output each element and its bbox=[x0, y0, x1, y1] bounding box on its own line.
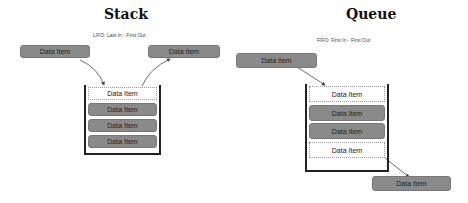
stack-slot: Data Item bbox=[88, 103, 157, 116]
stack-container: Data Item Data Item Data Item Data Item bbox=[84, 85, 161, 155]
queue-subtitle: FIFO: First In - First Out bbox=[317, 37, 370, 43]
queue-slot: Data Item bbox=[309, 86, 385, 102]
stack-subtitle: LIFO: Last In - First Out bbox=[93, 32, 146, 38]
enqueue-arrow bbox=[297, 67, 325, 85]
stack-title: Stack bbox=[104, 6, 148, 22]
stack-slot: Data Item bbox=[88, 135, 157, 148]
stack-outgoing-item: Data Item bbox=[148, 45, 220, 58]
stack-slot: Data Item bbox=[88, 119, 157, 132]
stack-slot: Data Item bbox=[88, 87, 157, 100]
queue-slot: Data Item bbox=[309, 105, 385, 121]
queue-outgoing-item: Data Item bbox=[372, 176, 451, 191]
push-arrow bbox=[80, 60, 104, 85]
queue-incoming-item: Data Item bbox=[236, 53, 317, 68]
queue-title: Queue bbox=[346, 6, 396, 22]
queue-slot: Data Item bbox=[309, 142, 385, 158]
arrows bbox=[0, 0, 468, 203]
queue-slot: Data Item bbox=[309, 123, 385, 139]
stack-incoming-item: Data Item bbox=[20, 45, 90, 58]
queue-container: Data Item Data Item Data Item Data Item bbox=[305, 84, 389, 172]
pop-arrow bbox=[142, 59, 170, 86]
